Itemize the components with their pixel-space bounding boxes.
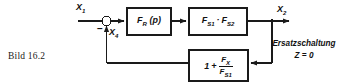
figure-canvas: X1 – X4 X2 FR (p) FS1·FS2 1+FXFS1 Ersatz… bbox=[0, 0, 340, 84]
note-line-1: Ersatzschaltung bbox=[272, 39, 335, 48]
output-signal-label: X2 bbox=[277, 5, 286, 16]
feedback-block-label: 1+FXFS1 bbox=[189, 56, 248, 77]
ersatzschaltung-note: Ersatzschaltung Z = 0 bbox=[268, 38, 340, 62]
controller-block-label: FR (p) bbox=[127, 16, 171, 27]
input-signal-label: X1 bbox=[76, 3, 85, 14]
minus-sign-label: – bbox=[97, 24, 103, 34]
note-line-2: Z = 0 bbox=[295, 51, 314, 60]
summing-junction bbox=[102, 16, 111, 25]
plant-block-label: FS1·FS2 bbox=[189, 16, 247, 27]
feedback-fraction: FXFS1 bbox=[219, 56, 233, 77]
feedback-signal-label: X4 bbox=[109, 28, 118, 39]
figure-caption: Bild 16.2 bbox=[8, 52, 45, 62]
